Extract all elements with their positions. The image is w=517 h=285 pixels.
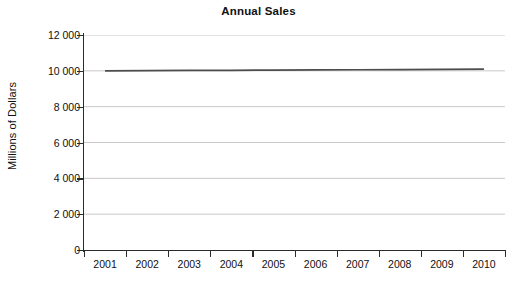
y-axis-tick-label: 8 000 — [24, 102, 80, 113]
x-axis-tick-mark — [337, 251, 338, 257]
x-axis-tick-label: 2001 — [93, 259, 116, 270]
y-axis-title: Millions of Dollars — [2, 0, 22, 252]
y-axis-tick-label: 6 000 — [24, 138, 80, 149]
y-axis-title-text: Millions of Dollars — [6, 82, 18, 170]
x-axis-tick-label: 2002 — [135, 259, 158, 270]
x-axis-tick-label: 2008 — [388, 259, 411, 270]
x-axis-tick-mark — [463, 251, 464, 257]
x-axis-tick-label: 2010 — [472, 259, 495, 270]
x-axis-tick-label: 2007 — [346, 259, 369, 270]
x-axis-tick-mark — [379, 251, 380, 257]
y-axis-tick-label: 0 — [24, 245, 80, 256]
x-axis-tick-label: 2005 — [262, 259, 285, 270]
annual-sales-chart: Annual Sales Millions of Dollars 02 0004… — [0, 0, 517, 285]
chart-title: Annual Sales — [0, 5, 517, 17]
y-axis-tick-label: 12 000 — [24, 30, 80, 41]
y-axis-tick-labels: 02 0004 0006 0008 00010 00012 000 — [22, 35, 80, 250]
y-axis-tick-label: 10 000 — [24, 66, 80, 77]
x-axis-tick-label: 2003 — [178, 259, 201, 270]
x-axis-tick-mark — [505, 251, 506, 257]
y-axis-tick-label: 4 000 — [24, 173, 80, 184]
x-axis-tick-label: 2006 — [304, 259, 327, 270]
x-axis-tick-mark — [210, 251, 211, 257]
y-axis-line — [83, 33, 84, 252]
x-axis-tick-mark — [126, 251, 127, 257]
x-axis-tick-mark — [84, 251, 85, 257]
x-axis-tick-mark — [295, 251, 296, 257]
plot-area — [84, 35, 505, 250]
plot-svg — [84, 35, 505, 250]
x-axis-tick-mark — [421, 251, 422, 257]
x-axis-tick-label: 2004 — [220, 259, 243, 270]
y-axis-tick-label: 2 000 — [24, 209, 80, 220]
x-axis-tick-mark — [168, 251, 169, 257]
x-axis-tick-label: 2009 — [430, 259, 453, 270]
x-axis-tick-mark — [252, 251, 253, 257]
